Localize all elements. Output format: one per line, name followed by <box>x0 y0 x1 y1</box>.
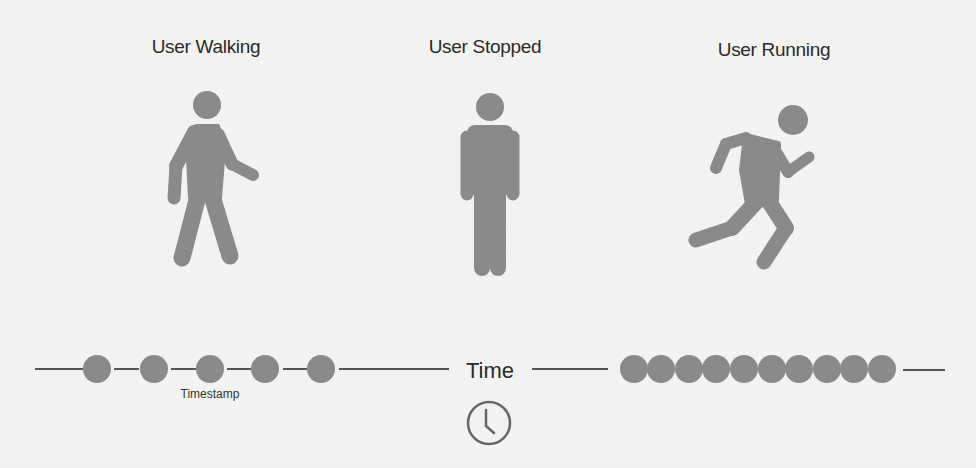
timeline-line <box>171 368 196 370</box>
timestamp-dot <box>251 355 279 383</box>
timestamp-dot <box>840 355 868 383</box>
time-axis-label: Time <box>466 358 514 384</box>
clock-icon <box>464 398 514 448</box>
timestamp-dot <box>785 355 813 383</box>
timestamp-dot <box>647 355 675 383</box>
standing-person-icon <box>450 92 530 282</box>
timestamp-dot <box>307 355 335 383</box>
timeline-line <box>35 368 83 370</box>
timestamp-dot <box>620 355 648 383</box>
timeline-line <box>227 368 252 370</box>
timestamp-dot <box>196 355 224 383</box>
timestamp-dot <box>730 355 758 383</box>
label-user-stopped: User Stopped <box>429 36 542 58</box>
label-user-walking: User Walking <box>152 36 261 58</box>
timestamp-dot <box>83 355 111 383</box>
timestamp-dot <box>675 355 703 383</box>
running-person-icon <box>686 100 836 280</box>
timeline-line <box>339 368 449 370</box>
timeline-line <box>114 368 139 370</box>
timeline-line <box>532 368 608 370</box>
timestamp-dot <box>140 355 168 383</box>
timestamp-caption: Timestamp <box>181 387 240 401</box>
timestamp-dot <box>813 355 841 383</box>
timestamp-dot <box>868 355 896 383</box>
walking-person-icon <box>160 88 260 278</box>
timestamp-dot <box>758 355 786 383</box>
label-user-running: User Running <box>718 39 831 61</box>
timeline-line <box>283 368 307 370</box>
timeline-line <box>903 369 945 371</box>
timestamp-dot <box>702 355 730 383</box>
